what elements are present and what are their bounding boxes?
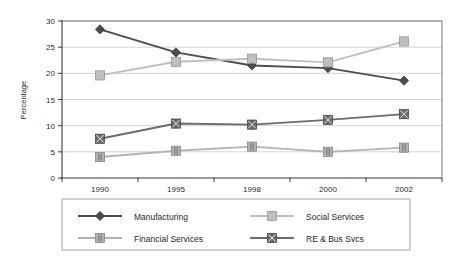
y-tick-label: 30 bbox=[46, 17, 55, 26]
marker-square bbox=[399, 37, 408, 46]
y-tick-label: 25 bbox=[46, 43, 55, 52]
y-tick-label: 15 bbox=[46, 96, 55, 105]
marker-square bbox=[247, 54, 256, 63]
y-tick-label: 20 bbox=[46, 69, 55, 78]
legend-label: RE & Bus Svcs bbox=[306, 234, 364, 244]
marker-square-x bbox=[247, 120, 256, 129]
marker-square-x bbox=[323, 115, 332, 124]
legend-label: Financial Services bbox=[134, 234, 203, 244]
y-axis-title: Percentage bbox=[19, 81, 28, 119]
x-axis-ticks: 19901995199820002002 bbox=[62, 178, 442, 194]
marker-square bbox=[171, 57, 180, 66]
marker-square-hatch bbox=[171, 146, 180, 155]
marker-square bbox=[267, 211, 276, 220]
legend-label: Manufacturing bbox=[134, 212, 188, 222]
line-chart: 051015202530 19901995199820002002 Percen… bbox=[0, 0, 464, 261]
legend-item[interactable]: Social Services bbox=[250, 211, 364, 221]
marker-square-x bbox=[267, 233, 276, 242]
x-tick-label: 2002 bbox=[395, 185, 413, 194]
marker-square-hatch bbox=[247, 142, 256, 151]
x-tick-label: 2000 bbox=[319, 185, 337, 194]
x-tick-label: 1990 bbox=[91, 185, 109, 194]
y-axis-ticks: 051015202530 bbox=[46, 17, 62, 183]
marker-square-x bbox=[171, 119, 180, 128]
x-tick-label: 1998 bbox=[243, 185, 261, 194]
marker-square bbox=[95, 71, 104, 80]
marker-square-x bbox=[399, 110, 408, 119]
marker-square-hatch bbox=[399, 143, 408, 152]
legend-item[interactable]: Financial Services bbox=[78, 233, 203, 243]
legend-label: Social Services bbox=[306, 212, 364, 222]
chart-container: 051015202530 19901995199820002002 Percen… bbox=[0, 0, 464, 261]
marker-square-hatch bbox=[323, 147, 332, 156]
y-tick-label: 0 bbox=[51, 174, 56, 183]
x-tick-label: 1995 bbox=[167, 185, 185, 194]
y-tick-label: 5 bbox=[51, 148, 56, 157]
y-tick-label: 10 bbox=[46, 122, 55, 131]
marker-square-hatch bbox=[95, 152, 104, 161]
marker-square bbox=[323, 58, 332, 67]
marker-square-x bbox=[95, 134, 104, 143]
marker-square-hatch bbox=[95, 233, 104, 242]
